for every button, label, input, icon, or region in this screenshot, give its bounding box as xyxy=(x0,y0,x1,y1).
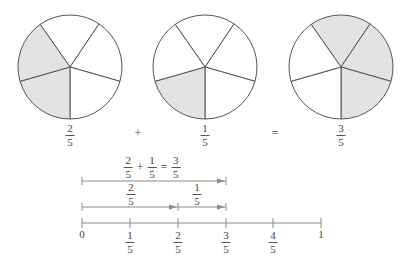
pie-three-fifths xyxy=(289,15,393,119)
denominator: 5 xyxy=(67,137,73,148)
denominator: 5 xyxy=(223,244,229,255)
tick-label-2-5: 2 5 xyxy=(174,230,183,255)
denominator: 5 xyxy=(149,169,155,180)
equation-result: 3 5 xyxy=(171,155,180,180)
numerator: 2 xyxy=(124,155,132,166)
equation-term-a: 2 5 xyxy=(124,155,133,180)
pie-one-fifth xyxy=(153,15,257,119)
addend-arrows xyxy=(82,203,226,211)
pie-label-three-fifths: 3 5 xyxy=(337,123,346,148)
denominator: 5 xyxy=(202,137,208,148)
segment-label-two-fifths: 2 5 xyxy=(127,182,136,207)
pie-label-one-fifth: 1 5 xyxy=(201,123,210,148)
pie-two-fifths xyxy=(18,15,122,119)
numerator: 2 xyxy=(127,182,135,193)
tick-label-0: 0 xyxy=(79,228,85,240)
tick-label-1: 1 xyxy=(318,228,324,240)
tick-label-1-5: 1 5 xyxy=(126,230,135,255)
denominator: 5 xyxy=(175,244,181,255)
numerator: 1 xyxy=(201,123,209,134)
denominator: 5 xyxy=(270,244,276,255)
numerator: 3 xyxy=(337,123,345,134)
numerator: 1 xyxy=(126,230,134,241)
numerator: 2 xyxy=(174,230,182,241)
equation-term-b: 1 5 xyxy=(148,155,157,180)
denominator: 5 xyxy=(194,196,200,207)
numerator: 1 xyxy=(148,155,156,166)
denominator: 5 xyxy=(128,196,134,207)
numerator: 2 xyxy=(66,123,74,134)
tick-label-3-5: 3 5 xyxy=(222,230,231,255)
sum-equation: 2 5 + 1 5 = 3 5 xyxy=(124,155,181,180)
number-line xyxy=(82,218,321,228)
pie-label-two-fifths: 2 5 xyxy=(66,123,75,148)
equals-sign: = xyxy=(161,160,168,175)
denominator: 5 xyxy=(338,137,344,148)
equals-operator: = xyxy=(272,126,279,141)
plus-operator: + xyxy=(135,126,142,141)
numerator: 1 xyxy=(193,182,201,193)
numerator: 3 xyxy=(222,230,230,241)
denominator: 5 xyxy=(127,244,133,255)
numerator: 3 xyxy=(172,155,180,166)
tick-label-4-5: 4 5 xyxy=(269,230,278,255)
plus-sign: + xyxy=(137,160,144,175)
segment-label-one-fifth: 1 5 xyxy=(193,182,202,207)
numerator: 4 xyxy=(269,230,277,241)
denominator: 5 xyxy=(125,169,131,180)
denominator: 5 xyxy=(173,169,179,180)
